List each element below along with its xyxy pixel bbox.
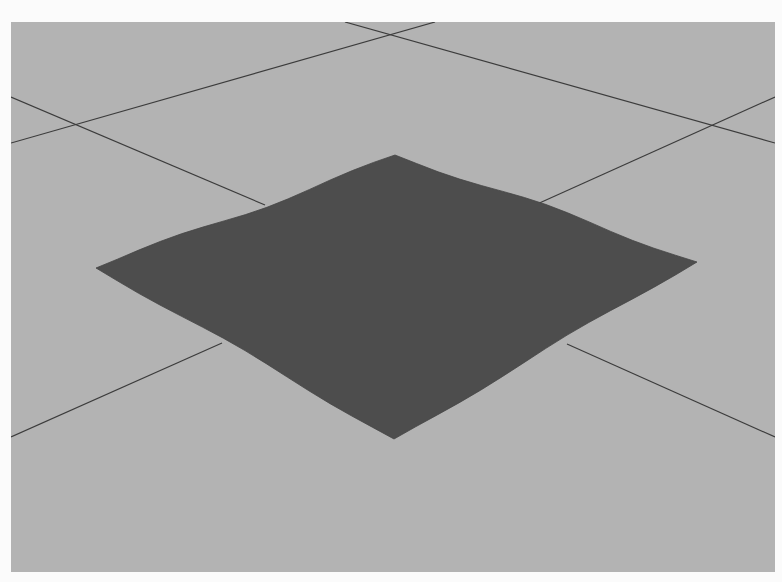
3d-viewport[interactable]	[11, 22, 775, 572]
grid-line-6	[567, 344, 775, 437]
viewport-canvas	[11, 22, 775, 572]
grid-line-1	[345, 22, 775, 143]
grid-line-3	[11, 97, 265, 205]
grid-line-2	[11, 22, 435, 143]
plane-mesh[interactable]	[96, 155, 697, 439]
grid-line-5	[11, 343, 222, 437]
screenshot-frame	[0, 0, 782, 582]
grid-line-4	[535, 97, 775, 205]
